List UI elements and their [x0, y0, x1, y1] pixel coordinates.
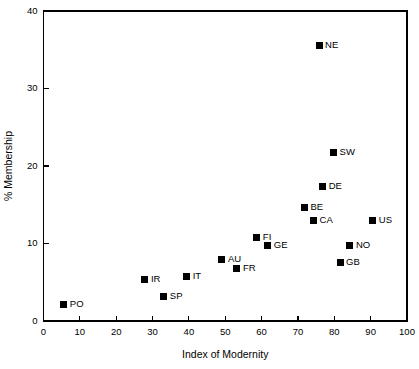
point-marker-ca	[310, 217, 317, 224]
point-label-de: DE	[329, 180, 342, 191]
y-tick-label-10: 10	[27, 237, 38, 248]
point-label-ge: GE	[274, 239, 288, 250]
data-point-po: PO	[60, 298, 83, 309]
data-point-us: US	[369, 214, 392, 225]
y-axis-title: % Membership	[2, 131, 14, 201]
x-tick-label-90: 90	[365, 326, 376, 337]
point-label-po: PO	[70, 298, 84, 309]
y-tick-label-40: 40	[27, 5, 38, 16]
data-point-no: NO	[346, 239, 370, 250]
x-tick-label-10: 10	[75, 326, 86, 337]
x-axis-ticks	[44, 316, 408, 321]
x-tick-label-20: 20	[111, 326, 122, 337]
point-label-gb: GB	[346, 256, 360, 267]
y-axis-tick-labels: 010203040	[27, 5, 38, 326]
x-tick-label-100: 100	[399, 326, 415, 337]
x-tick-label-80: 80	[329, 326, 340, 337]
data-point-au: AU	[218, 253, 241, 264]
x-axis-title: Index of Modernity	[182, 348, 269, 360]
point-marker-ir	[141, 276, 148, 283]
data-point-ir: IR	[141, 273, 160, 284]
x-tick-label-50: 50	[220, 326, 231, 337]
scatter-plot: 0102030405060708090100 010203040 POSPIRI…	[0, 0, 419, 369]
point-label-us: US	[379, 214, 392, 225]
x-axis-tick-labels: 0102030405060708090100	[41, 326, 415, 337]
x-tick-label-60: 60	[256, 326, 267, 337]
data-point-sw: SW	[330, 146, 355, 157]
point-label-sp: SP	[170, 290, 183, 301]
x-tick-label-30: 30	[147, 326, 158, 337]
point-marker-no	[346, 242, 353, 249]
point-marker-ge	[264, 242, 271, 249]
point-marker-sp	[160, 293, 167, 300]
plot-frame	[44, 11, 408, 321]
data-point-sp: SP	[160, 290, 182, 301]
data-point-gb: GB	[337, 256, 360, 267]
point-label-fr: FR	[243, 262, 256, 273]
data-point-it: IT	[183, 270, 201, 281]
point-marker-ne	[316, 42, 323, 49]
scatter-chart-page: 0102030405060708090100 010203040 POSPIRI…	[0, 0, 419, 369]
y-tick-label-30: 30	[27, 82, 38, 93]
point-marker-au	[218, 256, 225, 263]
point-marker-us	[369, 217, 376, 224]
data-point-de: DE	[319, 180, 342, 191]
point-marker-fr	[233, 265, 240, 272]
point-label-au: AU	[228, 253, 241, 264]
x-tick-label-70: 70	[293, 326, 304, 337]
point-marker-sw	[330, 149, 337, 156]
point-label-it: IT	[193, 270, 202, 281]
point-marker-fi	[253, 234, 260, 241]
point-marker-be	[301, 204, 308, 211]
point-label-fi: FI	[263, 231, 271, 242]
y-tick-label-20: 20	[27, 160, 38, 171]
point-label-ca: CA	[320, 214, 334, 225]
point-marker-po	[60, 301, 67, 308]
y-tick-label-0: 0	[32, 315, 37, 326]
point-marker-gb	[337, 259, 344, 266]
y-axis-ticks	[44, 11, 49, 321]
point-label-sw: SW	[340, 146, 355, 157]
point-marker-it	[183, 273, 190, 280]
x-tick-label-40: 40	[184, 326, 195, 337]
data-point-ca: CA	[310, 214, 333, 225]
point-marker-de	[319, 183, 326, 190]
x-tick-label-0: 0	[41, 326, 46, 337]
data-point-be: BE	[301, 201, 323, 212]
data-point-ne: NE	[316, 39, 339, 50]
point-label-ir: IR	[151, 273, 161, 284]
point-label-ne: NE	[325, 39, 338, 50]
data-point-group: POSPIRITFRGBAUGENOFICAUSBEDESWNE	[60, 39, 392, 309]
data-point-fi: FI	[253, 231, 271, 242]
point-label-be: BE	[310, 201, 323, 212]
point-label-no: NO	[356, 239, 370, 250]
